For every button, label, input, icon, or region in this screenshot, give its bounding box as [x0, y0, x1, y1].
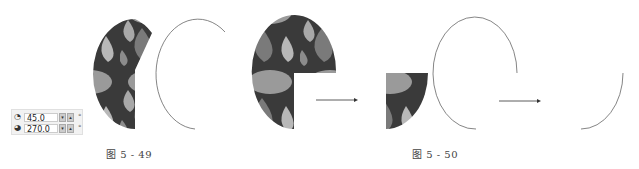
end-angle-input[interactable]: 270.0	[24, 124, 58, 133]
figure-canvas	[0, 0, 639, 169]
pie-quarter-piece	[386, 73, 428, 129]
start-angle-row: ◔ 45.0 ▾ ▴ °	[14, 112, 82, 122]
arrow-right-icon	[316, 98, 358, 102]
end-angle-decrement[interactable]: ▾	[59, 124, 66, 133]
caption-fig49: 图 5 - 49	[106, 146, 152, 161]
arc-quarter-outline	[581, 73, 623, 129]
angle-start-icon: ◔	[14, 113, 23, 121]
arrow-right-icon	[499, 99, 541, 103]
start-angle-increment[interactable]: ▴	[67, 113, 74, 122]
start-angle-input[interactable]: 45.0	[24, 113, 58, 122]
degree-unit: °	[78, 113, 82, 121]
pie-pattern-fig49	[80, 15, 160, 135]
degree-unit: °	[78, 124, 82, 132]
start-angle-decrement[interactable]: ▾	[59, 113, 66, 122]
arc-outline-fig49	[156, 19, 225, 129]
pie-pattern-fig50	[250, 12, 340, 132]
caption-fig50: 图 5 - 50	[412, 146, 458, 161]
end-angle-increment[interactable]: ▴	[67, 124, 74, 133]
arc-outline-fig50	[433, 17, 517, 129]
angle-end-icon: ◕	[14, 124, 23, 132]
end-angle-row: ◕ 270.0 ▾ ▴ °	[14, 123, 82, 133]
angle-panel: ◔ 45.0 ▾ ▴ ° ◕ 270.0 ▾ ▴ °	[11, 109, 83, 135]
